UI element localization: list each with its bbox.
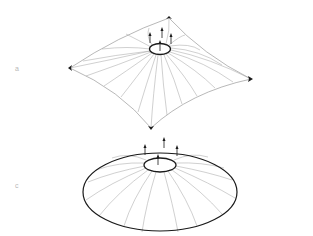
panel-a-saddle-membrane — [68, 16, 253, 130]
corner-anchors-a — [68, 16, 253, 130]
lifting-ring-c — [144, 158, 176, 172]
radial-fibers-a — [70, 18, 251, 128]
panel-c-cone-membrane — [83, 137, 237, 232]
anchor-right — [248, 76, 253, 82]
outer-boundary-c — [83, 153, 237, 231]
membrane-diagram — [0, 0, 313, 236]
edge-left-bottom — [70, 68, 151, 128]
edge-right-bottom — [151, 79, 251, 128]
edge-top-right — [169, 18, 251, 79]
